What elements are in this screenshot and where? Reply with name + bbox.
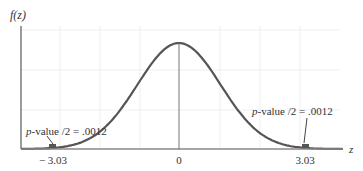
svg-text:p-value /2 = .0012: p-value /2 = .0012 (25, 125, 107, 137)
y-axis-label: f(z) (10, 8, 26, 22)
svg-text:p-value /2 = .0012: p-value /2 = .0012 (251, 105, 333, 117)
x-tick-zero: 0 (176, 154, 182, 166)
right-tail-shade (302, 144, 309, 149)
x-tick-pos: 3.03 (295, 154, 315, 166)
left-tail-shade (49, 144, 56, 149)
left-annotation-arrow (47, 136, 53, 144)
x-tick-neg: − 3.03 (39, 154, 68, 166)
right-annotation-arrow (304, 118, 307, 143)
right-annotation: p-value /2 = .0012 (251, 105, 333, 143)
left-annotation: p-value /2 = .0012 (25, 125, 107, 144)
x-axis-label: z (348, 143, 354, 155)
normal-distribution-chart: f(z) z − 3.03 0 3.03 p-value /2 = .0012 … (0, 0, 363, 171)
